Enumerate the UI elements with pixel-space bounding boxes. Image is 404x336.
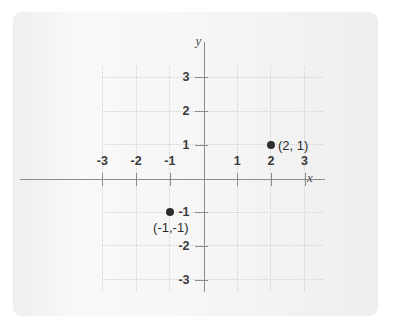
x-tick-label: 3 [301,155,308,168]
gridline-horizontal [102,212,323,213]
x-tick-label: -3 [97,155,108,168]
y-axis-tick [195,280,208,281]
y-tick-label: -2 [178,240,189,253]
y-tick-label: 2 [183,105,190,118]
x-axis [20,179,325,180]
y-axis-tick [195,111,208,112]
y-axis-tick [195,77,208,78]
data-point-label: (2, 1) [278,139,308,152]
gridline-horizontal [102,111,323,112]
y-axis-tick [195,145,208,146]
x-axis-name: x [307,170,313,186]
x-axis-tick [102,173,103,186]
y-axis-tick [195,246,208,247]
y-axis [204,42,205,292]
x-axis-tick [305,173,306,186]
y-tick-label: -1 [178,206,189,219]
data-point[interactable] [267,141,275,149]
y-tick-label: 1 [183,139,190,152]
figure-canvas: -3-2-1123321-1-2-3yx(2, 1)(-1,-1) [0,0,404,336]
data-point-label: (-1,-1) [153,221,188,234]
x-tick-label: -2 [131,155,142,168]
y-axis-name: y [196,33,202,49]
x-axis-tick [237,173,238,186]
coordinate-plane: -3-2-1123321-1-2-3yx(2, 1)(-1,-1) [0,0,404,336]
gridline-horizontal [102,279,323,280]
x-tick-label: 2 [267,155,274,168]
data-point[interactable] [166,208,174,216]
y-axis-tick [195,212,208,213]
x-axis-tick [170,173,171,186]
y-tick-label: 3 [183,71,190,84]
gridline-horizontal [102,77,323,78]
x-axis-tick [136,173,137,186]
gridline-horizontal [102,245,323,246]
x-axis-tick [271,173,272,186]
x-tick-label: -1 [164,155,175,168]
y-tick-label: -3 [178,273,189,286]
x-tick-label: 1 [234,155,241,168]
